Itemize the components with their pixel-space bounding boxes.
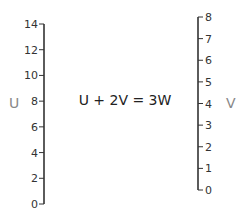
tick-label: 8 [31,95,38,108]
tick-label: 3 [205,119,212,132]
tick-label: 12 [24,44,38,57]
equation-label: U + 2V = 3W [79,92,172,108]
tick-label: 0 [31,198,38,211]
v-axis: 012345678 [198,11,212,197]
tick-label: 8 [205,11,212,24]
tick-label: 2 [205,141,212,154]
tick-label: 4 [205,98,212,111]
tick-label: 14 [24,18,38,31]
tick-label: 7 [205,33,212,46]
nomogram-diagram: 02468101214 012345678 U V U + 2V = 3W [0,0,246,220]
tick-label: 5 [205,76,212,89]
tick-label: 4 [31,147,38,160]
u-axis-label: U [9,95,19,111]
tick-label: 10 [24,69,38,82]
tick-label: 6 [205,54,212,67]
tick-label: 0 [205,184,212,197]
tick-label: 6 [31,121,38,134]
tick-label: 1 [205,162,212,175]
v-axis-label: V [226,95,236,111]
u-axis: 02468101214 [24,18,44,211]
tick-label: 2 [31,172,38,185]
